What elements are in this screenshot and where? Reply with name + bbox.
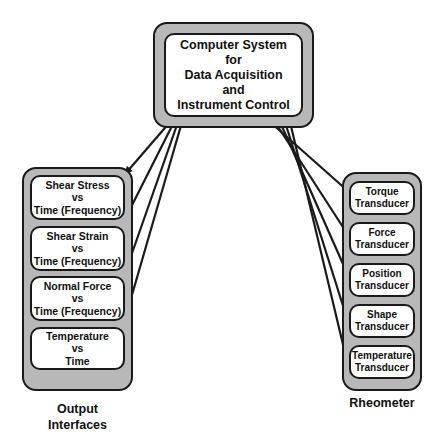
caption-line: Rheometer [342,396,422,412]
transducer-line: Transducer [355,280,409,292]
output-item-line: Time [65,355,89,368]
arrow-to-shape-transducer [285,122,350,328]
output-item-line: vs [72,292,84,305]
output-interfaces-panel: Shear Stress vs Time (Frequency) Shear S… [22,167,133,391]
arrow-to-temperature-transducer [290,122,350,374]
transducer-line: Temperature [352,350,412,362]
output-item-line: Time (Frequency) [34,305,121,318]
force-transducer-box: Force Transducer [349,222,415,256]
arrow-to-position-transducer [280,122,351,282]
output-item-line: Shear Stress [45,179,109,192]
central-line-3: Data Acquisition [184,68,282,83]
central-line-2: for [225,53,242,68]
output-item-normal-force: Normal Force vs Time (Frequency) [30,276,125,321]
output-interfaces-caption: Output Interfaces [22,402,133,433]
transducer-line: Transducer [355,321,409,333]
temperature-transducer-box: Temperature Transducer [349,345,415,379]
caption-line: Output [22,402,133,418]
rheometer-panel: Torque Transducer Force Transducer Posit… [342,172,422,391]
transducer-line: Transducer [355,239,409,251]
output-item-temperature: Temperature vs Time [30,327,125,370]
central-line-5: Instrument Control [177,98,290,113]
shape-transducer-box: Shape Transducer [349,304,415,338]
output-item-shear-strain: Shear Strain vs Time (Frequency) [30,226,125,271]
torque-transducer-box: Torque Transducer [349,181,415,215]
central-line-4: and [222,83,244,98]
output-item-line: Temperature [46,330,109,343]
transducer-line: Force [368,227,395,239]
computer-system-panel: Computer System for Data Acquisition and… [153,22,314,128]
transducer-line: Transducer [355,198,409,210]
output-item-line: Normal Force [44,280,112,293]
output-item-line: Shear Strain [47,230,109,243]
transducer-line: Torque [365,186,398,198]
caption-line: Interfaces [22,418,133,434]
output-item-line: Time (Frequency) [34,204,121,217]
rheometer-caption: Rheometer [342,396,422,412]
computer-system-box: Computer System for Data Acquisition and… [164,33,303,117]
transducer-line: Position [362,268,401,280]
output-item-line: vs [72,242,84,255]
output-item-line: vs [72,191,84,204]
transducer-line: Shape [367,309,397,321]
output-item-line: vs [72,342,84,355]
central-line-1: Computer System [180,38,287,53]
transducer-line: Transducer [355,362,409,374]
position-transducer-box: Position Transducer [349,263,415,297]
output-item-shear-stress: Shear Stress vs Time (Frequency) [30,175,125,220]
output-item-line: Time (Frequency) [34,255,121,268]
